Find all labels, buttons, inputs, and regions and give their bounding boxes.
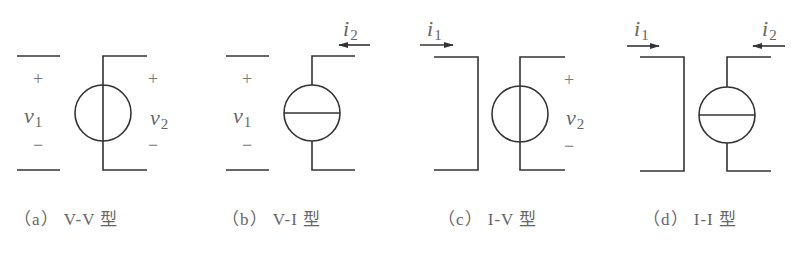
- wire: [727, 143, 771, 171]
- minus-sign: −: [33, 135, 43, 156]
- wire: [434, 57, 478, 170]
- wire: [520, 57, 565, 170]
- caption-d: （d） I-I 型: [643, 205, 737, 230]
- panel-c-circuit: [420, 45, 565, 170]
- minus-sign: −: [242, 135, 252, 156]
- caption-c: （c） I-V 型: [438, 205, 537, 230]
- voltage-label-v1: v1: [24, 103, 42, 131]
- wire: [103, 56, 147, 170]
- plus-sign: +: [33, 69, 43, 90]
- wire: [640, 57, 684, 171]
- current-label-i2: i2: [343, 16, 358, 44]
- var-letter: i: [427, 16, 433, 41]
- plus-sign: +: [148, 69, 158, 90]
- wire: [727, 57, 771, 87]
- plus-sign: +: [564, 70, 574, 91]
- var-subscript: 2: [577, 116, 585, 132]
- var-letter: v: [233, 103, 243, 128]
- var-subscript: 1: [35, 114, 43, 130]
- var-subscript: 1: [434, 27, 442, 43]
- current-label-i2: i2: [762, 16, 777, 44]
- var-subscript: 2: [350, 27, 358, 43]
- var-letter: i: [634, 16, 640, 41]
- var-subscript: 2: [161, 116, 169, 132]
- wire: [312, 56, 355, 85]
- caption-b: （b） V-I 型: [222, 205, 321, 230]
- var-subscript: 1: [641, 27, 649, 43]
- var-letter: i: [762, 16, 768, 41]
- caption-a: （a） V-V 型: [14, 205, 118, 230]
- current-label-i1: i1: [634, 16, 649, 44]
- var-letter: v: [150, 105, 160, 130]
- voltage-label-v2: v2: [150, 105, 168, 133]
- var-subscript: 2: [769, 27, 777, 43]
- var-letter: i: [343, 16, 349, 41]
- var-subscript: 1: [244, 114, 252, 130]
- var-letter: v: [24, 103, 34, 128]
- var-letter: v: [566, 105, 576, 130]
- voltage-label-v2: v2: [566, 105, 584, 133]
- panel-d-circuit: [627, 46, 785, 171]
- minus-sign: −: [564, 136, 574, 157]
- wire: [312, 141, 355, 170]
- voltage-label-v1: v1: [233, 103, 251, 131]
- minus-sign: −: [148, 135, 158, 156]
- plus-sign: +: [242, 69, 252, 90]
- current-label-i1: i1: [427, 16, 442, 44]
